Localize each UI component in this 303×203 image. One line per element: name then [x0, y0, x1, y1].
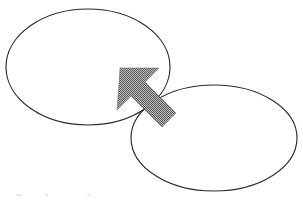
diagram-canvas: Figure partially cut off: [0, 0, 303, 203]
diagram-svg: [0, 0, 303, 203]
